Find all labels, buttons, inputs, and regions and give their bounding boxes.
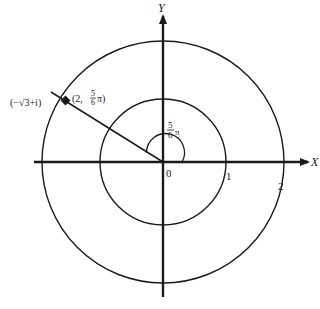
origin-label: 0 [166, 167, 172, 179]
point-polar-numerator: 5 [91, 89, 95, 98]
y-axis-label: Y [158, 1, 166, 15]
polar-diagram: Y X 0 1 2 5 6 π (−√3+i) (2, 5 6 π) [0, 0, 320, 309]
angle-denominator: 6 [168, 130, 173, 140]
point-polar-suffix: π) [97, 93, 105, 105]
radius-1-label: 1 [226, 170, 232, 182]
x-axis-label: X [310, 155, 319, 169]
angle-arc [147, 134, 185, 162]
point-polar-denominator: 6 [91, 98, 95, 107]
point-polar-prefix: (2, [72, 93, 83, 105]
point-cartesian-label: (−√3+i) [10, 97, 41, 109]
angle-pi: π [175, 127, 180, 137]
radius-2-label: 2 [278, 180, 284, 192]
angle-numerator: 5 [168, 120, 173, 130]
